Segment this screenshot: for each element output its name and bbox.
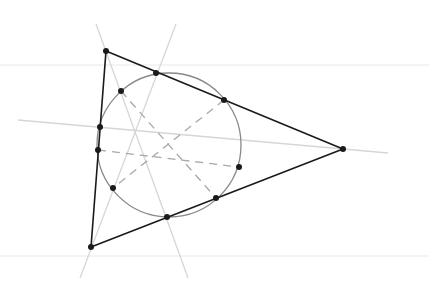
circle-point [153,70,159,76]
vertex-point-c [88,244,94,250]
dashed-segment [98,150,239,167]
faint-horizontal-rules [0,65,429,256]
dashed-segment [113,100,224,188]
dashed-segments [98,91,239,198]
vertex-point-b [340,146,346,152]
vertex-point-a [103,48,109,54]
altitude-line [80,24,176,278]
altitude-line [18,120,388,153]
circle-point [97,124,103,130]
circle-point [95,147,101,153]
diagram-canvas [0,0,429,292]
altitude-lines [18,24,388,278]
circle-point [110,185,116,191]
circle-point [164,214,170,220]
geometry-figure [0,0,429,292]
circle-point [213,195,219,201]
circle-point [221,97,227,103]
circle-point [236,164,242,170]
triangle-vertices [88,48,346,250]
circle-point [118,88,124,94]
